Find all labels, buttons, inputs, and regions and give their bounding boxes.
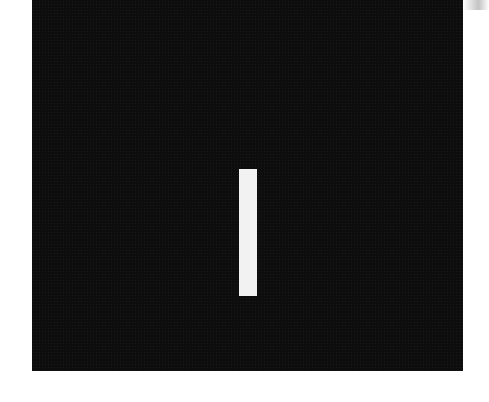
corner-smudge — [463, 0, 489, 10]
white-vertical-bar — [239, 169, 257, 296]
